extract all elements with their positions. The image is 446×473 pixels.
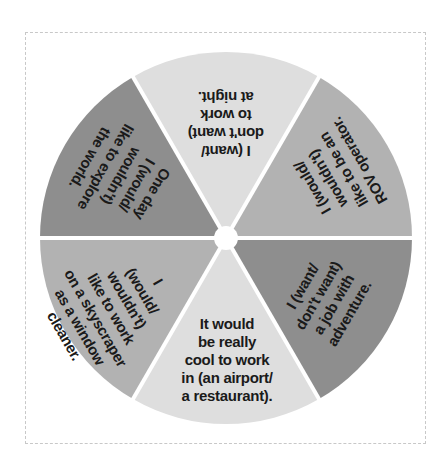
- label-line: to work: [166, 106, 286, 124]
- label-line: in (an airport/: [167, 369, 287, 387]
- label-line: be really: [167, 333, 287, 351]
- label-line: cool to work: [167, 351, 287, 369]
- center-hub: [214, 226, 238, 250]
- label-line: at night.: [166, 88, 286, 106]
- label-line: don't want): [166, 124, 286, 142]
- label-line: a restaurant).: [167, 387, 287, 405]
